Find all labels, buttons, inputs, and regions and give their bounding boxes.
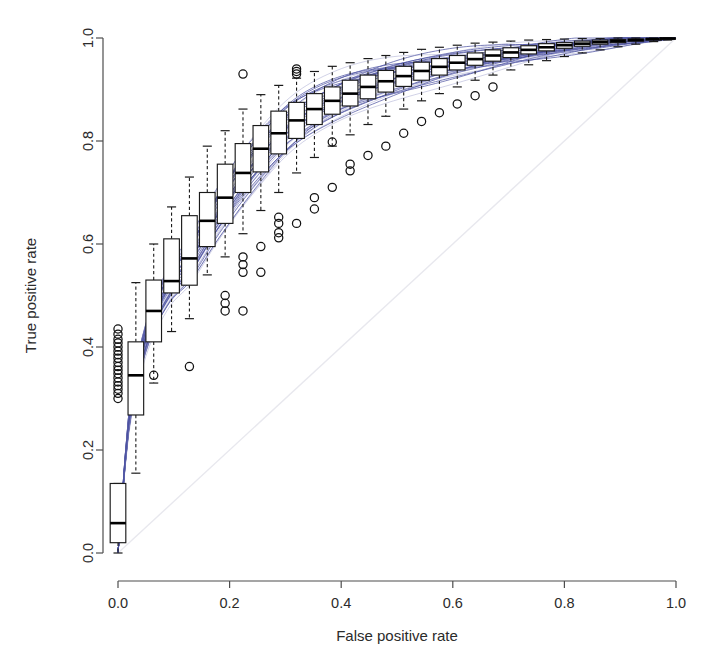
- x-tick-label: 0.8: [554, 595, 574, 611]
- x-tick-label: 0.0: [108, 595, 128, 611]
- box-iqr: [164, 239, 180, 293]
- box-iqr: [182, 216, 198, 286]
- y-tick-label: 0.4: [80, 337, 96, 357]
- x-tick-label: 0.4: [331, 595, 351, 611]
- boxplot: [660, 38, 676, 40]
- box-iqr: [235, 144, 251, 193]
- y-axis-title: True positive rate: [22, 238, 39, 353]
- roc-plot-canvas: 0.00.20.40.60.81.00.00.20.40.60.81.0True…: [0, 0, 713, 661]
- x-tick-label: 0.6: [443, 595, 463, 611]
- roc-figure: 0.00.20.40.60.81.00.00.20.40.60.81.0True…: [0, 0, 713, 661]
- box-iqr: [110, 483, 126, 542]
- x-tick-label: 1.0: [666, 595, 686, 611]
- y-tick-label: 0.2: [80, 440, 96, 460]
- y-tick-label: 0.8: [80, 131, 96, 151]
- x-axis-title: False positive rate: [336, 627, 458, 644]
- box-iqr: [128, 342, 144, 415]
- x-tick-label: 0.2: [220, 595, 240, 611]
- y-tick-label: 0.6: [80, 234, 96, 254]
- y-tick-label: 1.0: [80, 28, 96, 48]
- box-iqr: [217, 164, 233, 223]
- y-tick-label: 0.0: [80, 543, 96, 563]
